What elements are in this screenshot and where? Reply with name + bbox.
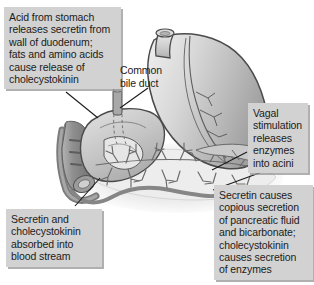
- leader-acid: [66, 92, 98, 118]
- callout-secretin-causes-secretion: Secretin causes copious secretion of pan…: [214, 185, 313, 280]
- callout-acid-secretin: Acid from stomach releases secretin from…: [4, 7, 121, 89]
- callout-secretin-absorbed: Secretin and cholecystokinin absorbed in…: [6, 209, 102, 267]
- leader-bile-duct: [120, 88, 148, 108]
- pancreatic-secretion-figure: Acid from stomach releases secretin from…: [0, 0, 314, 285]
- label-common-bile-duct: Common bile duct: [120, 64, 182, 89]
- callout-vagal-stimulation: Vagal stimulation releases enzymes into …: [248, 103, 308, 173]
